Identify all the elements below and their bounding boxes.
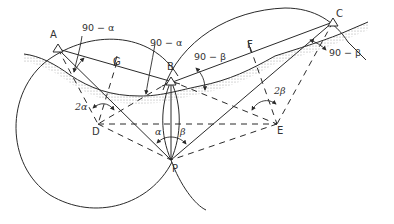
arc-alpha: [157, 137, 171, 143]
ground-hatch: [24, 22, 368, 104]
label-p: P: [172, 163, 178, 174]
label-e: E: [277, 125, 283, 136]
label-alpha: α: [155, 126, 162, 137]
station-a-icon: [53, 44, 63, 52]
arc-2beta: [252, 101, 276, 110]
label-d: D: [92, 126, 100, 137]
label-90-beta-c: 90 − β: [329, 47, 361, 58]
label-2beta: 2β: [273, 85, 286, 96]
label-2alpha: 2α: [74, 101, 88, 112]
label-c: C: [336, 8, 343, 19]
label-beta: β: [179, 126, 186, 137]
label-90-alpha-a: 90 − α: [82, 22, 114, 33]
arc-90-alpha-b: [146, 44, 155, 94]
label-90-beta-b: 90 − β: [194, 51, 226, 62]
arc-beta: [171, 137, 186, 144]
label-f: F: [247, 39, 253, 50]
resection-diagram: A B C D E P G F 90 − α 90 − α 90 − β 90 …: [0, 0, 394, 224]
label-g: G: [113, 56, 121, 67]
label-a: A: [50, 29, 57, 40]
label-90-alpha-b: 90 − α: [150, 37, 182, 48]
label-b: B: [167, 61, 174, 72]
